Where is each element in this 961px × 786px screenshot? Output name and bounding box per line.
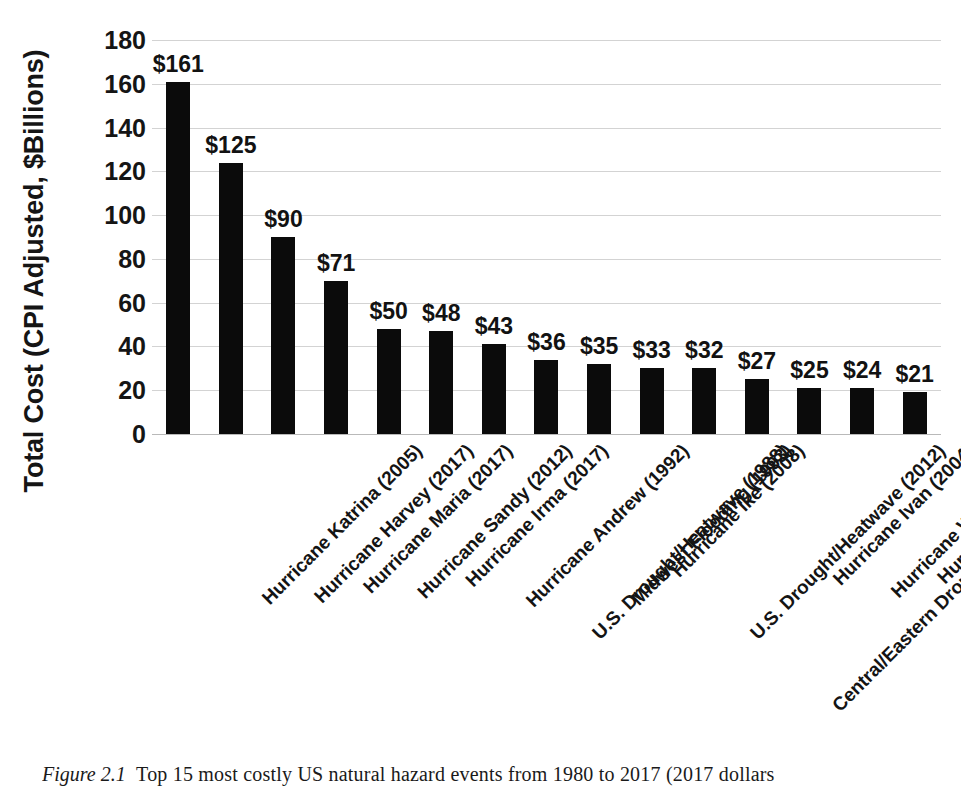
y-axis-tick-160: 160	[78, 72, 146, 97]
bar-value-label: $24	[843, 359, 881, 382]
bar-value-label: $48	[422, 302, 460, 325]
bar-slot: $35	[573, 40, 626, 434]
y-axis-tick-100: 100	[78, 203, 146, 228]
bar-slot: $33	[625, 40, 678, 434]
bar-slot: $25	[783, 40, 836, 434]
bar-value-label: $33	[633, 339, 671, 362]
bar-value-label: $50	[370, 300, 408, 323]
bar[interactable]	[534, 360, 558, 434]
bar-slot: $90	[257, 40, 310, 434]
bar[interactable]	[797, 388, 821, 434]
bar-value-label: $25	[790, 359, 828, 382]
figure-caption: Figure 2.1 Top 15 most costly US natural…	[42, 762, 937, 786]
bar-slot: $125	[205, 40, 258, 434]
bar[interactable]	[271, 237, 295, 434]
bar-value-label: $27	[738, 350, 776, 373]
bar-slot: $27	[731, 40, 784, 434]
y-axis-tick-20: 20	[78, 378, 146, 403]
bar[interactable]	[587, 364, 611, 434]
y-axis-tick-60: 60	[78, 291, 146, 316]
bar-slot: $21	[888, 40, 941, 434]
bar-value-label: $43	[475, 315, 513, 338]
bar[interactable]	[324, 281, 348, 434]
bar-value-label: $32	[685, 339, 723, 362]
bar-value-label: $35	[580, 335, 618, 358]
bar-value-label: $161	[153, 53, 204, 76]
bar-value-label: $21	[896, 363, 934, 386]
x-axis-label: Hurricane Ike (2008)	[667, 440, 809, 582]
figure-number: Figure 2.1	[42, 763, 126, 785]
y-axis-tick-120: 120	[78, 159, 146, 184]
y-axis-tick-140: 140	[78, 116, 146, 141]
x-axis-category-labels: Hurricane Katrina (2005)Hurricane Harvey…	[152, 440, 941, 730]
bar[interactable]	[692, 368, 716, 434]
bar-slot: $43	[468, 40, 521, 434]
bar-value-label: $125	[205, 134, 256, 157]
bar-slot: $50	[362, 40, 415, 434]
bar-slot: $32	[678, 40, 731, 434]
bar[interactable]	[482, 344, 506, 434]
bar-slot: $48	[415, 40, 468, 434]
caption-text: Top 15 most costly US natural hazard eve…	[136, 763, 775, 785]
bar-value-label: $90	[264, 208, 302, 231]
bar-slot: $161	[152, 40, 205, 434]
bar[interactable]	[850, 388, 874, 434]
bar[interactable]	[166, 82, 190, 434]
y-axis-title: Total Cost (CPI Adjusted, $Billions)	[19, 21, 55, 521]
bar-slot: $71	[310, 40, 363, 434]
y-axis-tick-180: 180	[78, 28, 146, 53]
bar-value-label: $36	[527, 331, 565, 354]
figure-container: Total Cost (CPI Adjusted, $Billions) 180…	[0, 0, 961, 786]
bar-series: $161$125$90$71$50$48$43$36$35$33$32$27$2…	[152, 40, 941, 434]
bar-slot: $36	[520, 40, 573, 434]
bar[interactable]	[903, 392, 927, 434]
y-axis-tick-40: 40	[78, 334, 146, 359]
y-axis-tick-80: 80	[78, 247, 146, 272]
bar[interactable]	[219, 163, 243, 434]
bar-value-label: $71	[317, 252, 355, 275]
y-axis-tick-0: 0	[78, 422, 146, 447]
y-axis-tick-labels: 180160140120100806040200	[78, 22, 146, 452]
bar[interactable]	[745, 379, 769, 434]
bar[interactable]	[429, 331, 453, 434]
bar-slot: $24	[836, 40, 889, 434]
bar[interactable]	[640, 368, 664, 434]
bar[interactable]	[377, 329, 401, 434]
gridline-0	[152, 434, 941, 435]
